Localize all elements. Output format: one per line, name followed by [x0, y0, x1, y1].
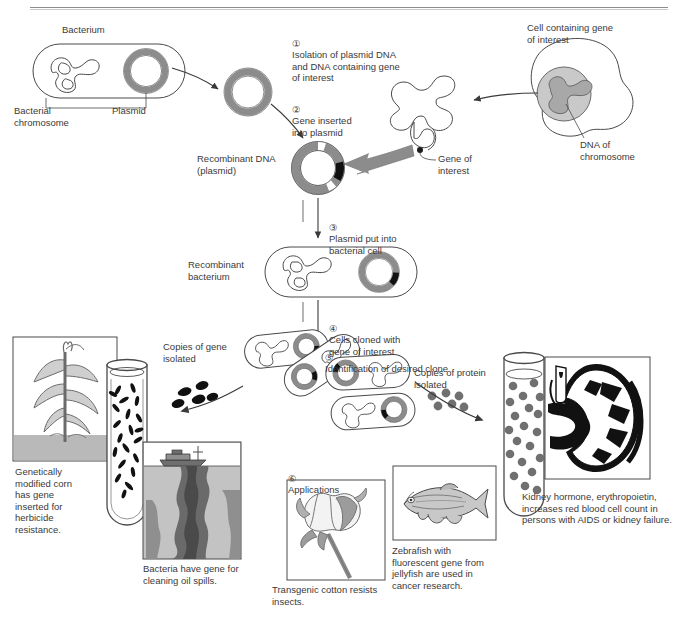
- caption-corn: Genetically modified corn has gene inser…: [15, 466, 72, 535]
- label-gene-of-interest: Gene of interest: [438, 153, 472, 176]
- gene-copies-illustration: [172, 381, 218, 408]
- step-2-text: Gene inserted into plasmid: [292, 115, 352, 138]
- label-bacterial-chromosome: Bacterial chromosome: [14, 105, 69, 128]
- caption-cotton: Transgenic cotton resists insects.: [272, 584, 377, 607]
- kidney-illustration: [545, 357, 650, 479]
- protein-copies-illustration: [428, 389, 469, 412]
- label-recombinant-dna: Recombinant DNA (plasmid): [197, 153, 276, 176]
- chromosomal-dna-illustration: [390, 76, 454, 160]
- label-copies-of-gene: Copies of gene isolated: [163, 341, 227, 364]
- label-recombinant-bacterium: Recombinant bacterium: [188, 259, 244, 282]
- step-6-glyph: ⑥: [288, 473, 297, 484]
- label-cell-containing-gene: Cell containing gene of interest: [527, 22, 613, 45]
- label-bacterium: Bacterium: [62, 24, 105, 36]
- step-4-glyph: ④: [329, 323, 338, 334]
- oil-spill-illustration: [143, 442, 241, 559]
- step-1-text: Isolation of plasmid DNA and DNA contain…: [292, 49, 400, 83]
- corn-illustration: [13, 337, 117, 461]
- bacterium-illustration: [33, 44, 185, 108]
- step-5: ⑤ Identification of desired clone: [325, 340, 448, 375]
- zebrafish-illustration: [393, 466, 496, 540]
- step-6: ⑥ Applications: [288, 461, 339, 496]
- step-2: ② Gene inserted into plasmid: [292, 92, 352, 138]
- step-6-text: Applications: [288, 484, 339, 495]
- label-plasmid: Plasmid: [112, 105, 146, 117]
- step-5-glyph: ⑤: [325, 352, 334, 363]
- step-1: ① Isolation of plasmid DNA and DNA conta…: [292, 26, 400, 84]
- step-3-glyph: ③: [329, 222, 338, 233]
- caption-kidney: Kidney hormone, erythropoietin, increase…: [522, 491, 672, 526]
- caption-oil-spill: Bacteria have gene for cleaning oil spil…: [143, 563, 239, 586]
- step-1-glyph: ①: [292, 38, 301, 49]
- isolated-plasmid: [224, 68, 272, 116]
- caption-zebrafish: Zebrafish with fluorescent gene from jel…: [392, 545, 484, 591]
- bacteria-test-tube-illustration: [107, 360, 147, 526]
- recombinant-plasmid: [287, 137, 349, 199]
- eukaryotic-cell-illustration: [531, 38, 633, 138]
- step-2-glyph: ②: [292, 104, 301, 115]
- step-3: ③ Plasmid put into bacterial cell: [329, 210, 397, 256]
- label-dna-of-chromosome: DNA of chromosome: [580, 139, 635, 162]
- step-5-text: Identification of desired clone: [325, 363, 448, 374]
- arrow-cell-to-dna: [474, 93, 538, 100]
- step-3-text: Plasmid put into bacterial cell: [329, 233, 397, 256]
- arrow-gene-insertion: [344, 145, 414, 174]
